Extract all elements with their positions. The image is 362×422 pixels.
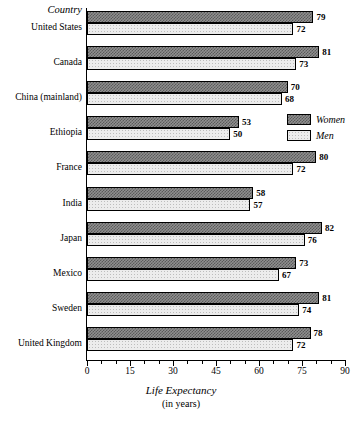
bar-women-france (87, 151, 316, 163)
bar-value-label: 78 (314, 327, 323, 339)
bar-value-label: 76 (308, 234, 317, 246)
bar-value-label: 57 (253, 199, 262, 211)
bar-value-label: 74 (302, 304, 311, 316)
x-tick-minor (144, 361, 145, 364)
category-label-united-kingdom: United Kingdom (0, 338, 82, 348)
bar-men-sweden (87, 304, 299, 316)
x-tick-minor (331, 361, 332, 364)
x-tick-minor (187, 361, 188, 364)
bar-women-ethiopia (87, 116, 239, 128)
bar-men-india (87, 199, 250, 211)
y-axis-title: Country (0, 4, 82, 15)
bar-value-label: 73 (299, 257, 308, 269)
bar-value-label: 67 (282, 269, 291, 281)
bar-women-japan (87, 222, 322, 234)
men-swatch-icon (287, 130, 311, 141)
category-label-france: France (0, 162, 82, 172)
bar-value-label: 81 (322, 292, 331, 304)
bar-men-france (87, 163, 293, 175)
bar-men-japan (87, 234, 305, 246)
category-label-united-states: United States (0, 22, 82, 32)
category-label-mexico: Mexico (0, 268, 82, 278)
bar-men-china-mainland (87, 93, 282, 105)
bar-value-label: 50 (233, 128, 242, 140)
category-label-ethiopia: Ethiopia (0, 127, 82, 137)
bar-value-label: 80 (319, 151, 328, 163)
bar-value-label: 72 (296, 163, 305, 175)
legend-label-women: Women (316, 114, 345, 125)
bar-value-label: 72 (296, 339, 305, 351)
category-label-india: India (0, 198, 82, 208)
bar-men-mexico (87, 269, 279, 281)
x-tick-minor (273, 361, 274, 364)
plot-area: 7972817370685350807258578276736781747872 (87, 8, 345, 360)
bar-value-label: 53 (242, 116, 251, 128)
x-tick-label: 30 (161, 366, 185, 376)
x-tick-label: 90 (333, 366, 357, 376)
legend-item-men: Men (287, 129, 345, 142)
x-tick-label: 60 (247, 366, 271, 376)
bar-value-label: 70 (291, 81, 300, 93)
bar-value-label: 58 (256, 187, 265, 199)
chart-legend: Women Men (287, 113, 345, 145)
x-tick-minor (316, 361, 317, 364)
x-tick-minor (288, 361, 289, 364)
x-tick-label: 0 (75, 366, 99, 376)
x-axis-title: Life Expectancy (0, 384, 362, 396)
x-tick-minor (116, 361, 117, 364)
x-tick-label: 45 (204, 366, 228, 376)
x-tick-minor (230, 361, 231, 364)
category-label-canada: Canada (0, 57, 82, 67)
legend-item-women: Women (287, 113, 345, 126)
x-tick-label: 15 (118, 366, 142, 376)
bar-women-china-mainland (87, 81, 288, 93)
bar-women-india (87, 187, 253, 199)
category-label-japan: Japan (0, 233, 82, 243)
bar-value-label: 79 (316, 11, 325, 23)
x-tick-label: 75 (290, 366, 314, 376)
bar-men-ethiopia (87, 128, 230, 140)
bar-value-label: 68 (285, 93, 294, 105)
bar-men-canada (87, 58, 296, 70)
bar-women-canada (87, 46, 319, 58)
bar-value-label: 82 (325, 222, 334, 234)
bar-men-united-kingdom (87, 339, 293, 351)
legend-label-men: Men (316, 130, 334, 141)
category-label-china-mainland: China (mainland) (0, 92, 82, 102)
bar-women-mexico (87, 257, 296, 269)
x-tick-minor (202, 361, 203, 364)
x-tick-minor (159, 361, 160, 364)
bar-value-label: 73 (299, 58, 308, 70)
life-expectancy-bar-chart: Country 79728173706853508072585782767367… (0, 0, 362, 422)
bar-value-label: 72 (296, 23, 305, 35)
bar-women-united-states (87, 11, 313, 23)
x-tick-minor (245, 361, 246, 364)
bar-men-united-states (87, 23, 293, 35)
bar-value-label: 81 (322, 46, 331, 58)
women-swatch-icon (287, 114, 311, 125)
bar-women-sweden (87, 292, 319, 304)
category-label-sweden: Sweden (0, 303, 82, 313)
x-axis-title-units: (in years) (0, 398, 362, 409)
x-tick-minor (101, 361, 102, 364)
bar-women-united-kingdom (87, 327, 311, 339)
